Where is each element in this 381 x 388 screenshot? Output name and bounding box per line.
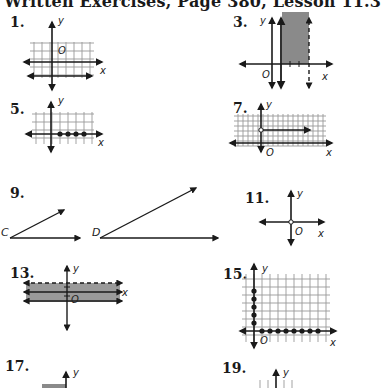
svg-text:x: x <box>121 287 128 298</box>
graph-exercise-7: y O x <box>226 100 337 172</box>
svg-text:O: O <box>295 226 303 237</box>
x-axis-label: x <box>99 65 106 76</box>
svg-text:y: y <box>261 263 269 274</box>
svg-text:x: x <box>321 71 328 82</box>
svg-text:O: O <box>260 335 268 346</box>
page-title: Written Exercises, Page 380, Lesson 11.3 <box>4 0 381 11</box>
svg-text:x: x <box>317 228 324 239</box>
svg-text:x: x <box>329 337 336 348</box>
graph-exercise-15: y O x <box>238 260 337 350</box>
graph-exercise-3: y O x <box>230 12 337 92</box>
svg-text:y: y <box>259 15 267 26</box>
svg-text:y: y <box>57 95 65 106</box>
graph-exercise-5: y x <box>10 98 110 170</box>
graph-exercise-19: y <box>250 366 310 386</box>
graph-exercise-1: y O x <box>10 12 110 92</box>
exercise-number: 17. <box>5 358 29 374</box>
angle-label-c: C <box>1 226 9 239</box>
svg-text:x: x <box>325 147 332 158</box>
graph-exercise-9: C D <box>0 180 230 250</box>
svg-text:y: y <box>282 367 290 378</box>
svg-text:y: y <box>72 263 80 274</box>
angle-label-d: D <box>92 226 100 239</box>
svg-text:O: O <box>266 147 274 158</box>
svg-text:y: y <box>265 99 273 110</box>
svg-text:x: x <box>97 137 104 148</box>
svg-text:O: O <box>262 69 270 80</box>
svg-text:y: y <box>296 188 304 199</box>
svg-text:O: O <box>71 294 79 305</box>
svg-text:y: y <box>72 367 80 378</box>
graph-exercise-13: y O x <box>20 260 130 335</box>
exercise-number: 19. <box>222 360 246 376</box>
y-axis-label: y <box>57 15 65 26</box>
graph-exercise-17: y <box>40 368 100 388</box>
origin-label: O <box>58 45 66 56</box>
graph-exercise-11: y O x <box>250 185 337 255</box>
